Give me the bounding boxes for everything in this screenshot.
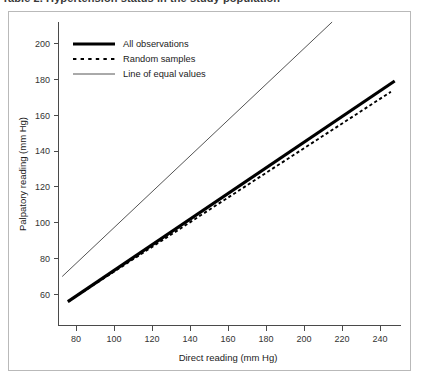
x-tick-label: 160 [220, 334, 235, 344]
x-axis-tick-labels: 80 100 120 140 160 180 200 220 240 [71, 334, 388, 344]
chart-legend: All observations Random samples Line of … [72, 36, 242, 81]
y-axis: 200 180 160 140 120 100 80 60 Palpatory … [17, 22, 59, 326]
legend-item-line-of-equal-values: Line of equal values [72, 66, 242, 81]
y-tick-label: 200 [35, 39, 50, 49]
y-axis-ticks [54, 44, 59, 295]
y-tick-label: 160 [35, 111, 50, 121]
solid-thick-line-icon [72, 38, 116, 50]
y-axis-title: Palpatory reading (mm Hg) [17, 117, 28, 231]
x-axis-title: Direct reading (mm Hg) [179, 352, 278, 363]
x-tick-label: 120 [144, 334, 159, 344]
legend-label: Line of equal values [116, 68, 206, 80]
y-axis-tick-labels: 200 180 160 140 120 100 80 60 [35, 39, 50, 300]
series-all-observations [68, 81, 395, 302]
x-tick-label: 100 [106, 334, 121, 344]
legend-item-random-samples: Random samples [72, 51, 242, 66]
x-axis: 80 100 120 140 160 180 200 220 240 Direc… [59, 326, 402, 364]
x-tick-label: 140 [182, 334, 197, 344]
legend-item-all-observations: All observations [72, 36, 242, 51]
y-tick-label: 120 [35, 182, 50, 192]
y-tick-label: 180 [35, 75, 50, 85]
solid-thin-line-icon [72, 68, 116, 80]
x-tick-label: 80 [71, 334, 81, 344]
y-tick-label: 60 [40, 290, 50, 300]
legend-label: All observations [116, 38, 189, 50]
x-tick-label: 240 [372, 334, 387, 344]
x-tick-label: 200 [296, 334, 311, 344]
x-axis-ticks [76, 326, 380, 331]
x-tick-label: 220 [334, 334, 349, 344]
y-tick-label: 80 [40, 254, 50, 264]
figure-container: Table 2. Hypertension status in the stud… [0, 0, 421, 386]
y-tick-label: 100 [35, 218, 50, 228]
y-tick-label: 140 [35, 146, 50, 156]
dashed-line-icon [72, 53, 116, 65]
legend-label: Random samples [116, 53, 195, 65]
x-tick-label: 180 [258, 334, 273, 344]
